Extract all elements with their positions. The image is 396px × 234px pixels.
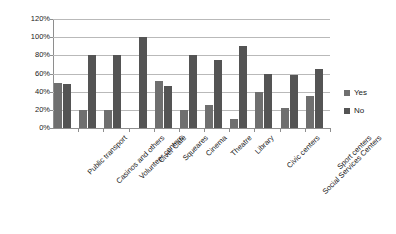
x-axis-tick-mark xyxy=(229,128,230,132)
x-axis-label: Civic centers xyxy=(285,134,321,170)
x-axis-tick-mark xyxy=(129,128,130,132)
chart-legend: YesNo xyxy=(344,88,367,124)
x-axis-tick-mark xyxy=(78,128,79,132)
x-axis-tick-mark xyxy=(305,128,306,132)
legend-label: Yes xyxy=(354,88,367,97)
x-axis-label: Library xyxy=(254,134,276,156)
x-axis-tick-mark xyxy=(154,128,155,132)
legend-swatch-icon xyxy=(344,108,350,114)
y-axis-tick-mark xyxy=(50,74,53,75)
y-axis-tick-mark xyxy=(50,110,53,111)
x-axis-tick-mark xyxy=(280,128,281,132)
legend-item-yes[interactable]: Yes xyxy=(344,88,367,97)
legend-item-no[interactable]: No xyxy=(344,106,367,115)
y-axis-tick-mark xyxy=(50,92,53,93)
x-axis-tick-mark xyxy=(330,128,331,132)
y-axis-tick-mark xyxy=(50,55,53,56)
x-axis-label: Theatre xyxy=(230,134,254,158)
y-axis-tick-mark xyxy=(50,128,53,129)
legend-swatch-icon xyxy=(344,90,350,96)
x-axis-tick-mark xyxy=(204,128,205,132)
legend-label: No xyxy=(354,106,364,115)
x-axis-label: Social Services Centers xyxy=(321,134,383,196)
y-axis-tick-mark xyxy=(50,37,53,38)
y-axis-tick-mark xyxy=(50,19,53,20)
x-axis-tick-mark xyxy=(103,128,104,132)
x-axis-tick-mark xyxy=(179,128,180,132)
x-axis-tick-mark xyxy=(254,128,255,132)
bar-chart: 0%20%40%60%80%100%120% Public transportC… xyxy=(0,0,396,234)
x-axis-category-labels: Public transportCasinos and othersVolunt… xyxy=(0,0,396,234)
